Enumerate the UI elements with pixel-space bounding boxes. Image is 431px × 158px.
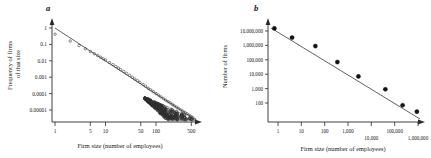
panel-b-xtick-1: 10 xyxy=(299,128,305,134)
panel-a: a Frequency of firms of that size 1 0.1 … xyxy=(0,0,215,158)
panel-a-ytick-2: 0.01 xyxy=(38,58,48,64)
data-point xyxy=(335,60,339,64)
panel-a-xtick-4: 100 xyxy=(152,128,160,134)
panel-a-xtick-2: 10 xyxy=(103,128,109,134)
panel-b-xtick-0: 1 xyxy=(277,128,280,134)
panel-b-ytick-0: 10,000,000 xyxy=(240,28,263,34)
panel-b: b Number of firms 10,000,000 1,000,000 1… xyxy=(215,0,431,158)
panel-a-ytick-1: 0.1 xyxy=(40,41,47,47)
panel-a-xtick-0: 1 xyxy=(54,128,57,134)
panel-b-xtick-5: 100,000 xyxy=(386,128,403,134)
panel-b-xtick-2: 100 xyxy=(321,128,329,134)
panel-b-plot: Number of firms 10,000,000 1,000,000 100… xyxy=(215,0,431,158)
panel-b-data-points xyxy=(272,26,419,113)
data-point xyxy=(356,74,360,78)
panel-a-ytick-5: 0.00001 xyxy=(29,107,47,113)
panel-b-x-axis-arrow xyxy=(418,120,425,125)
data-point xyxy=(69,40,72,43)
panel-a-ytick-4: 0.0001 xyxy=(32,91,47,97)
data-point xyxy=(272,26,276,30)
data-point xyxy=(313,44,317,48)
panel-a-ylabel-line1: Frequency of firms xyxy=(6,41,13,90)
data-point xyxy=(415,110,419,114)
figure-container: a Frequency of firms of that size 1 0.1 … xyxy=(0,0,431,158)
panel-b-y-ticks xyxy=(265,31,268,103)
panel-a-xtick-3: 50 xyxy=(138,128,144,134)
panel-a-x-axis-arrow xyxy=(195,120,202,125)
data-point xyxy=(54,33,57,36)
panel-b-ytick-3: 10,000 xyxy=(249,71,263,77)
panel-b-ytick-5: 100 xyxy=(255,100,263,106)
data-point xyxy=(383,87,387,91)
panel-a-ylabel-line2: of that size xyxy=(14,50,21,78)
panel-b-xtick-3: 1,000 xyxy=(342,128,354,134)
panel-a-xtick-5: 500 xyxy=(187,128,195,134)
panel-b-ylabel: Number of firms xyxy=(221,45,228,88)
data-point xyxy=(401,103,405,107)
panel-a-xtick-1: 5 xyxy=(89,128,92,134)
panel-a-x-ticks xyxy=(55,122,191,126)
panel-b-ytick-4: 1,000 xyxy=(252,86,264,92)
panel-b-xtick-4: 10,000 xyxy=(364,135,378,141)
data-point xyxy=(290,35,294,39)
panel-b-y-axis-arrow xyxy=(266,18,271,25)
panel-a-y-axis-arrow xyxy=(50,18,55,25)
panel-b-xtick-6: 1,000,000 xyxy=(408,135,429,141)
panel-b-fit-line xyxy=(271,28,420,119)
panel-b-xlabel: Firm size (number of employees) xyxy=(300,145,385,153)
panel-a-xlabel: Firm size (number of employees) xyxy=(77,142,162,150)
panel-a-plot: Frequency of firms of that size 1 0.1 0.… xyxy=(0,0,215,158)
panel-a-ytick-3: 0.001 xyxy=(35,74,47,80)
panel-a-data-points xyxy=(54,33,196,121)
panel-b-ytick-2: 100,000 xyxy=(246,57,263,63)
panel-b-ytick-1: 1,000,000 xyxy=(243,42,264,48)
panel-a-ytick-0: 1 xyxy=(44,25,47,31)
panel-b-x-ticks xyxy=(278,122,418,126)
data-point xyxy=(78,44,81,47)
